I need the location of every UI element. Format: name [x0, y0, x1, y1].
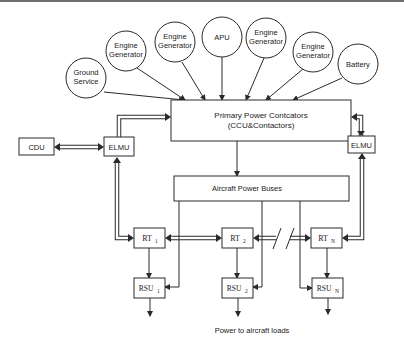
primary-label: Primary Power Contcators	[214, 111, 307, 120]
source-label: Generator	[296, 51, 330, 60]
source-label: Engine	[114, 41, 137, 50]
rt1-rt2-link	[165, 234, 222, 242]
source-label: Generator	[249, 37, 283, 46]
source-engine-generator-1: Engine Generator	[106, 31, 146, 71]
primary-power-contactors: Primary Power Contcators (CCU&Contactors…	[171, 100, 351, 141]
aircraft-power-buses: Aircraft Power Buses	[174, 176, 349, 201]
rt-subscript: 1	[155, 238, 158, 244]
load-output-arrows	[150, 298, 328, 316]
source-label: Engine	[254, 28, 277, 37]
cdu-label: CDU	[28, 143, 44, 152]
source-label: APU	[214, 33, 229, 42]
elmu-right-primary-link	[351, 113, 365, 137]
source-engine-generator-2: Engine Generator	[155, 22, 195, 62]
source-label: Engine	[163, 32, 186, 41]
elmu-label: ELMU	[351, 141, 372, 150]
rt-label: RT	[142, 234, 152, 243]
rt-label: RT	[318, 234, 328, 243]
rt-n: RT N	[311, 228, 342, 248]
source-battery: Battery	[338, 44, 378, 84]
source-label: Battery	[346, 60, 370, 69]
source-ground-service: Ground Service	[66, 58, 106, 98]
source-engine-generator-3: Engine Generator	[246, 18, 286, 58]
elmu-left-rt1-link	[113, 157, 134, 242]
rsu-2: RSU 2	[222, 278, 253, 298]
rsu-subscript: 1	[157, 288, 160, 294]
rsu-n: RSU N	[312, 278, 343, 298]
footer-label: Power to aircraft loads	[215, 326, 290, 335]
rsu-1: RSU 1	[134, 278, 165, 298]
source-apu: APU	[202, 17, 242, 57]
source-engine-generator-4: Engine Generator	[293, 32, 333, 72]
source-label: Engine	[301, 42, 324, 51]
power-distribution-diagram: Ground Service Engine Generator Engine G…	[0, 0, 404, 343]
break-rtn-link	[286, 228, 311, 249]
rsu-label: RSU	[139, 284, 154, 293]
rsu-subscript: N	[335, 288, 339, 294]
rt-label: RT	[230, 234, 240, 243]
source-label: Generator	[109, 50, 143, 59]
source-label: Service	[73, 77, 98, 86]
primary-sublabel: (CCU&Contactors)	[228, 121, 295, 130]
elmu-right: ELMU	[348, 136, 375, 153]
rt2-break-link	[253, 228, 281, 249]
rsu-label: RSU	[227, 284, 242, 293]
rt-subscript: N	[331, 238, 335, 244]
cdu: CDU	[19, 138, 54, 155]
cdu-elmu-link	[54, 143, 104, 151]
rsu-label: RSU	[317, 284, 332, 293]
source-label: Generator	[158, 41, 192, 50]
rsu-subscript: 2	[245, 288, 248, 294]
elmu-left: ELMU	[104, 137, 134, 156]
rt-1: RT 1	[134, 228, 165, 248]
source-label: Ground	[73, 68, 98, 77]
elmu-label: ELMU	[109, 143, 130, 152]
buses-label: Aircraft Power Buses	[212, 184, 282, 193]
rt-2: RT 2	[222, 228, 253, 248]
rt-subscript: 2	[243, 238, 246, 244]
